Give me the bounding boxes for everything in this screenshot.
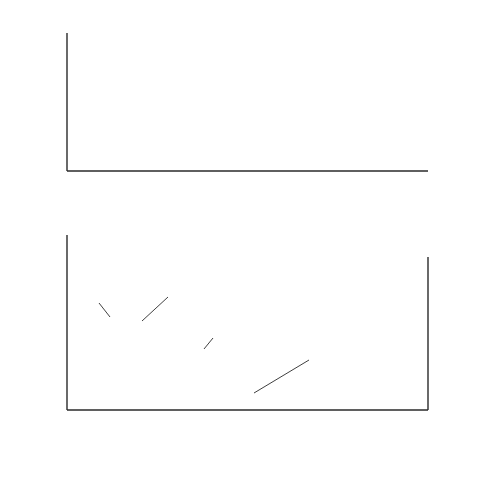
hydrograph-figure	[0, 0, 498, 482]
rising-limb-pointer	[99, 303, 110, 317]
recession-limb-pointer	[204, 338, 213, 349]
rainfall-chart	[67, 33, 428, 171]
discharge-chart	[0, 0, 428, 410]
base-flow-pointer	[254, 360, 309, 393]
storm-runoff-pointer	[142, 297, 168, 321]
